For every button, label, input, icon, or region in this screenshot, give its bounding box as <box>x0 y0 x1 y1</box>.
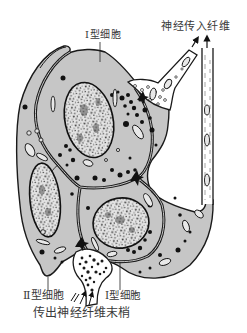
carotid-body-cell-diagram: Ⅰ型细胞 神经传入纤维 Ⅱ型细胞 Ⅰ型细胞 传出神经纤维末梢 <box>0 0 247 333</box>
label-type2-cell: Ⅱ型细胞 <box>23 290 64 301</box>
cell-illustration <box>0 0 247 333</box>
label-afferent-nerve-fiber: 神经传入纤维 <box>161 21 230 32</box>
label-type1-cell-top: Ⅰ型细胞 <box>85 30 121 40</box>
label-type1-cell-bottom: Ⅰ型细胞 <box>105 290 140 301</box>
afferent-arrows <box>192 38 207 48</box>
label-efferent-nerve-terminal: 传出神经纤维末梢 <box>33 307 131 319</box>
